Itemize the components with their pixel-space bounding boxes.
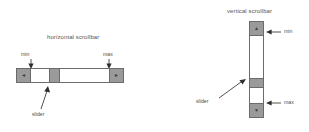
triangle-up-icon: ▲ (254, 26, 259, 31)
scroll-up-button[interactable]: ▲ (250, 22, 263, 36)
scrollbar-diagram: horizontal scrollbar min max slider ◄ (0, 0, 309, 132)
vertical-scrollbar-track[interactable] (250, 36, 263, 103)
vertical-scrollbar-widget[interactable]: ▲ ▼ (249, 21, 264, 118)
vertical-scrollbar-slider[interactable] (250, 78, 263, 88)
triangle-down-icon: ▼ (254, 108, 259, 113)
scroll-down-button[interactable]: ▼ (250, 103, 263, 117)
